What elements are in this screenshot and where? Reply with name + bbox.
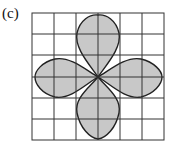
rose-figure <box>0 0 174 155</box>
grid <box>32 13 164 140</box>
